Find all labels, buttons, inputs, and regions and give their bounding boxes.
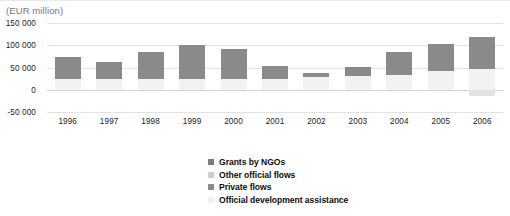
plot-area: 150 000100 00050 0000-50 000 xyxy=(47,23,503,112)
bar-segment xyxy=(469,69,495,89)
legend-item-label: Grants by NGOs xyxy=(219,157,285,167)
bar-segment xyxy=(428,71,454,90)
bar-group xyxy=(96,23,122,112)
legend-item-label: Other official flows xyxy=(219,170,295,180)
bar-segment xyxy=(303,77,329,89)
bar-segment-negative xyxy=(469,90,495,97)
bar-segment xyxy=(262,66,288,78)
gridline xyxy=(47,112,503,113)
bar-group xyxy=(138,23,164,112)
bar-segment xyxy=(428,44,454,71)
x-axis-tick-label: 2001 xyxy=(255,117,295,126)
bar-group xyxy=(221,23,247,112)
bar-segment xyxy=(303,73,329,77)
bar-group xyxy=(262,23,288,112)
legend-item[interactable]: Other official flows xyxy=(208,169,498,182)
legend-swatch-icon xyxy=(208,184,214,190)
bar-group xyxy=(55,23,81,112)
bar-group xyxy=(428,23,454,112)
bar-segment xyxy=(469,37,495,69)
x-axis-tick-label: 1996 xyxy=(48,117,88,126)
x-axis-tick-label: 2000 xyxy=(214,117,254,126)
y-axis-tick-label: 50 000 xyxy=(0,63,36,72)
y-axis-tick-label: 150 000 xyxy=(0,19,36,28)
bar-group xyxy=(345,23,371,112)
bar-segment xyxy=(138,79,164,90)
x-axis-tick-label: 2004 xyxy=(379,117,419,126)
bar-segment xyxy=(179,79,205,90)
bar-segment xyxy=(55,79,81,90)
chart-legend: Grants by NGOsOther official flowsPrivat… xyxy=(208,156,498,206)
x-axis-tick-label: 2003 xyxy=(338,117,378,126)
chart-unit-caption: (EUR million) xyxy=(6,5,63,16)
legend-swatch-icon xyxy=(208,159,214,165)
bar-segment xyxy=(138,52,164,79)
legend-item[interactable]: Official development assistance xyxy=(208,194,498,207)
bar-segment xyxy=(386,52,412,74)
x-axis-tick-label: 1998 xyxy=(131,117,171,126)
y-axis-tick-label: -50 000 xyxy=(0,108,36,117)
bar-segment xyxy=(55,57,81,78)
bar-segment xyxy=(345,76,371,89)
chart-figure: (EUR million) 150 000100 00050 0000-50 0… xyxy=(0,0,510,216)
x-axis-tick-label: 2002 xyxy=(296,117,336,126)
legend-item-label: Private flows xyxy=(219,182,271,192)
bar-segment xyxy=(345,67,371,77)
bar-segment xyxy=(179,45,205,79)
bar-segment xyxy=(221,49,247,78)
bar-segment xyxy=(96,79,122,90)
bar-group xyxy=(386,23,412,112)
x-axis-tick-label: 1997 xyxy=(89,117,129,126)
x-axis-tick-label: 1999 xyxy=(172,117,212,126)
bar-group xyxy=(179,23,205,112)
bar-segment xyxy=(262,79,288,90)
legend-swatch-icon xyxy=(208,172,214,178)
bar-segment xyxy=(96,62,122,79)
y-axis-tick-label: 0 xyxy=(0,85,36,94)
legend-item[interactable]: Private flows xyxy=(208,181,498,194)
y-axis-tick-label: 100 000 xyxy=(0,41,36,50)
legend-swatch-icon xyxy=(208,197,214,203)
x-axis-tick-labels: 1996199719981999200020012002200320042005… xyxy=(47,117,503,133)
x-axis-tick-label: 2006 xyxy=(462,117,502,126)
bar-segment xyxy=(221,79,247,90)
legend-item[interactable]: Grants by NGOs xyxy=(208,156,498,169)
bar-group xyxy=(469,23,495,112)
bar-segment xyxy=(386,75,412,90)
x-axis-tick-label: 2005 xyxy=(421,117,461,126)
bar-group xyxy=(303,23,329,112)
legend-item-label: Official development assistance xyxy=(219,195,348,205)
